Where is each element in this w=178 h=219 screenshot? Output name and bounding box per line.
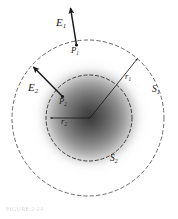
label-s1: S1: [152, 85, 160, 95]
field-vector-e1: [71, 8, 77, 45]
figure-graphic: [0, 0, 178, 219]
figure-container: E1 P1 E2 P2 r1 r2 S1 S2 FIGURE 2-24: [0, 0, 178, 219]
label-e2: E2: [28, 82, 38, 93]
label-p1: P1: [71, 46, 79, 55]
label-s2: S2: [110, 154, 118, 164]
label-p2: P2: [59, 97, 67, 106]
figure-caption: FIGURE 2-24: [6, 206, 43, 212]
label-r2: r2: [61, 117, 67, 126]
label-e1: E1: [56, 17, 66, 28]
label-r1: r1: [125, 72, 131, 81]
